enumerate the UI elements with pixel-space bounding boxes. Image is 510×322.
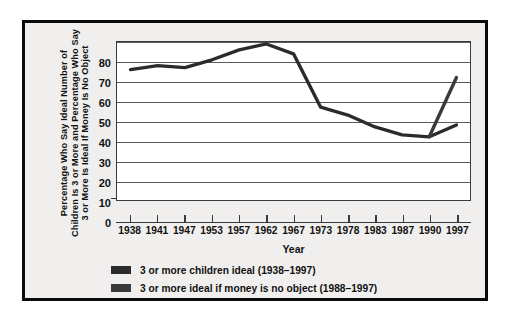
y-axis-tick-label: 40	[99, 137, 111, 149]
x-axis-tick-label: 1973	[309, 225, 332, 236]
legend-label: 3 or more ideal if money is no object (1…	[140, 283, 377, 294]
series-lines	[117, 42, 470, 200]
x-axis-tick-label: 1938	[118, 225, 141, 236]
y-axis-tick-label: 80	[99, 57, 111, 69]
y-axis-baseline-stub	[111, 198, 117, 199]
y-axis-title-line-1: Percentage Who Say Ideal Number of	[59, 50, 70, 216]
legend-swatch-icon	[111, 266, 131, 274]
x-axis-tick-labels: 1938194119471953195719621967197319781983…	[116, 225, 471, 239]
x-axis-tick-label: 1978	[337, 225, 360, 236]
x-axis-tick-label: 1941	[146, 225, 169, 236]
y-axis-tick-label: 0	[105, 217, 111, 229]
series-line-1	[131, 44, 457, 137]
x-axis-tick	[430, 215, 431, 223]
x-axis-tick	[375, 215, 376, 223]
x-axis-tick-label: 1997	[446, 225, 469, 236]
x-axis-tick	[184, 215, 185, 223]
x-axis	[116, 215, 471, 223]
x-axis-tick	[294, 215, 295, 223]
x-axis-title: Year	[116, 243, 471, 255]
x-axis-tick	[348, 215, 349, 223]
x-axis-tick-label: 1983	[364, 225, 387, 236]
x-axis-tick	[457, 215, 458, 223]
y-axis-tick-label: 10	[99, 197, 111, 209]
chart-figure-frame: Percentage Who Say Ideal Number of Child…	[22, 20, 488, 301]
plot-area	[116, 41, 471, 201]
x-axis-tick	[403, 215, 404, 223]
x-axis-tick	[266, 215, 267, 223]
x-axis-tick-label: 1947	[173, 225, 196, 236]
y-axis-tick-label: 20	[99, 177, 111, 189]
y-axis-tick-labels: 80706050403020100	[83, 41, 111, 201]
y-axis-title-line-2: Children Is 3 or More and Percentage Who…	[70, 29, 81, 237]
x-axis-tick-label: 1990	[419, 225, 442, 236]
x-axis-tick	[239, 215, 240, 223]
x-axis-tick-label: 1967	[282, 225, 305, 236]
y-axis-tick-label: 60	[99, 97, 111, 109]
legend-item: 3 or more ideal if money is no object (1…	[111, 279, 471, 297]
legend-swatch-icon	[111, 284, 131, 292]
y-axis-tick-label: 30	[99, 157, 111, 169]
x-axis-tick-label: 1987	[391, 225, 414, 236]
x-axis-tick-label: 1953	[200, 225, 223, 236]
x-axis-tick	[321, 215, 322, 223]
chart-legend: 3 or more children ideal (1938–1997)3 or…	[111, 261, 471, 297]
y-axis-tick-label: 70	[99, 77, 111, 89]
x-axis-tick	[212, 215, 213, 223]
legend-item: 3 or more children ideal (1938–1997)	[111, 261, 471, 279]
y-axis-tick-label: 50	[99, 117, 111, 129]
x-axis-tick-label: 1957	[228, 225, 251, 236]
legend-label: 3 or more children ideal (1938–1997)	[140, 265, 316, 276]
x-axis-tick-label: 1962	[255, 225, 278, 236]
x-axis-tick	[157, 215, 158, 223]
x-axis-tick	[130, 215, 131, 223]
